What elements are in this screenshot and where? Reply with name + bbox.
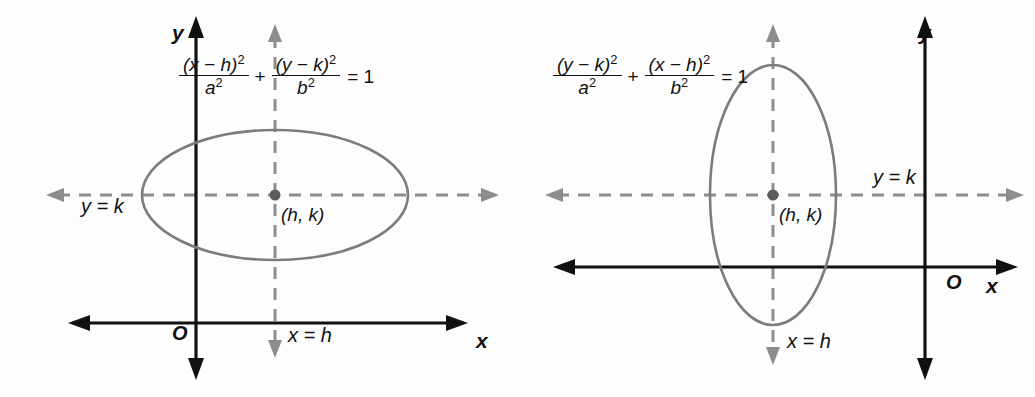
fraction-second: (y − k)2 b2 — [272, 55, 341, 97]
numerator: (y − k)2 — [272, 55, 341, 76]
denominator: b2 — [293, 76, 319, 97]
origin-label: O — [946, 272, 962, 292]
fraction-second: (x − h)2 b2 — [645, 55, 715, 97]
fraction-first: (y − k)2 a2 — [553, 55, 622, 97]
equation-vertical-ellipse: (y − k)2 a2 + (x − h)2 b2 = 1 — [551, 55, 748, 97]
plus-operator: + — [255, 67, 266, 86]
guide-horizontal-y-equals-k — [545, 188, 1024, 202]
origin-label: O — [172, 323, 188, 343]
numerator: (x − h)2 — [179, 55, 249, 76]
numerator: (y − k)2 — [553, 55, 622, 76]
guide-label-x-equals-h: x = h — [288, 325, 332, 345]
guide-label-x-equals-h: x = h — [787, 331, 831, 351]
center-point-marker — [768, 190, 779, 201]
x-axis-label: x — [986, 275, 998, 296]
ellipse-diagram: (x − h)2 a2 + (y − k)2 b2 = 1 y x O y = … — [0, 0, 1035, 397]
center-point-label: (h, k) — [779, 205, 822, 224]
center-point-marker — [270, 190, 281, 201]
equals-one: = 1 — [347, 67, 374, 86]
fraction-first: (x − h)2 a2 — [179, 55, 249, 97]
equals-one: = 1 — [721, 67, 748, 86]
numerator: (x − h)2 — [645, 55, 715, 76]
center-point-label: (h, k) — [281, 205, 324, 224]
diagram-vector-layer — [0, 0, 1035, 397]
y-axis — [917, 16, 933, 380]
x-axis-label: x — [476, 330, 488, 351]
guide-label-y-equals-k: y = k — [873, 167, 916, 187]
x-axis — [68, 315, 468, 331]
equation-horizontal-ellipse: (x − h)2 a2 + (y − k)2 b2 = 1 — [177, 55, 374, 97]
y-axis-label: y — [172, 22, 184, 43]
denominator: a2 — [201, 76, 227, 97]
denominator: b2 — [667, 76, 693, 97]
guide-label-y-equals-k: y = k — [81, 196, 124, 216]
y-axis-label: y — [919, 22, 931, 43]
denominator: a2 — [574, 76, 600, 97]
plus-operator: + — [628, 67, 639, 86]
